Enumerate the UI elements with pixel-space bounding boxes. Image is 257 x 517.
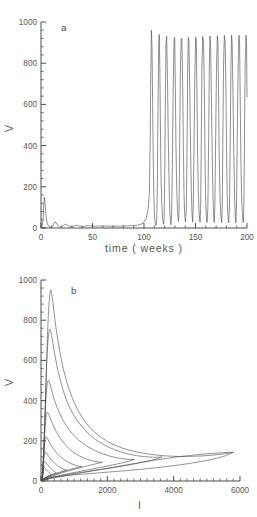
x-tick-label: 0 [39,486,44,495]
x-tick-label: 0 [39,233,44,242]
panel-b-axes [41,280,240,481]
y-tick-label: 400 [23,397,37,406]
y-tick-label: 200 [23,183,37,192]
panel-b-ticks [41,280,240,481]
panel-b-label: b [71,285,76,296]
panel-a-svg: 05010015020002004006008001000 time ( wee… [0,0,257,258]
y-tick-label: 800 [23,316,37,325]
panel-b-x-axis-title: I [138,499,142,511]
y-tick-label: 200 [23,437,37,446]
y-tick-label: 600 [23,356,37,365]
panel-b-curves [41,290,233,481]
panel-b-svg: 020004000600002004006008001000 I V b [0,258,257,517]
panel-b-separatrix-line [42,452,233,480]
panel-a-timeseries: 05010015020002004006008001000 time ( wee… [0,0,257,258]
y-tick-label: 600 [23,100,37,109]
panel-a-x-axis-title: time ( weeks ) [105,242,183,254]
scientific-figure: 05010015020002004006008001000 time ( wee… [0,0,257,517]
panel-b-phaseplane: 020004000600002004006008001000 I V b [0,258,257,517]
y-tick-label: 400 [23,142,37,151]
panel-b-outer-loop [42,290,234,481]
panel-a-trajectory [41,30,247,227]
y-tick-label: 0 [32,477,37,486]
panel-b-y-axis-title: V [3,378,15,386]
x-tick-label: 50 [88,233,98,242]
panel-a-y-axis-title: V [3,124,15,132]
x-tick-label: 6000 [231,486,250,495]
x-tick-label: 150 [189,233,203,242]
y-tick-label: 800 [23,59,37,68]
y-tick-label: 1000 [19,276,38,285]
y-tick-label: 0 [32,224,37,233]
y-tick-label: 1000 [19,18,38,27]
x-tick-label: 100 [137,233,151,242]
panel-b-inner-loop-2 [42,412,103,480]
x-tick-label: 200 [240,233,254,242]
x-tick-label: 4000 [165,486,184,495]
panel-a-label: a [61,22,67,33]
x-tick-label: 2000 [98,486,117,495]
panel-a-curves [41,30,247,227]
